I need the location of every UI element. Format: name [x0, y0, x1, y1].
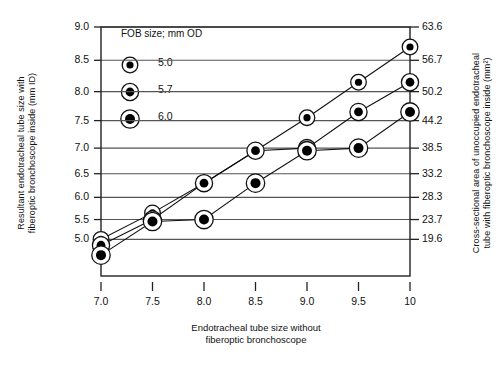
data-point: [247, 142, 264, 159]
data-point: [92, 246, 110, 264]
chart-figure: Resultant endotracheal tube size with fi…: [0, 0, 499, 367]
data-point: [298, 141, 316, 159]
data-point: [401, 103, 419, 121]
plot-area: [0, 0, 499, 367]
data-point: [195, 175, 212, 192]
data-point: [195, 210, 213, 228]
data-point: [349, 139, 367, 157]
data-point: [402, 39, 418, 55]
data-point: [299, 110, 315, 126]
data-point: [401, 74, 418, 91]
data-point: [143, 212, 161, 230]
data-point: [351, 74, 367, 90]
data-point: [350, 103, 367, 120]
data-point: [246, 174, 264, 192]
